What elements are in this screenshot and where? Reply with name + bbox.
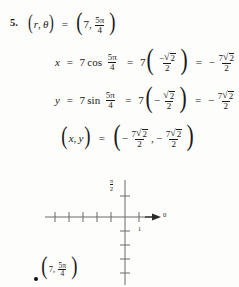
y-coefficient: 7 bbox=[80, 94, 86, 106]
x-computation-line: x = 7 cos 5π4 = 7(−22) = −722 bbox=[55, 53, 238, 74]
answer-var-y: y bbox=[79, 132, 84, 144]
answer-y-denominator: 2 bbox=[169, 139, 178, 149]
sqrt-2-x: 2 bbox=[164, 53, 176, 63]
equals-sign-ans: = bbox=[99, 132, 105, 144]
y-angle-denominator: 4 bbox=[106, 100, 115, 110]
plotted-point-marker bbox=[34, 277, 38, 281]
x-value-denominator: 2 bbox=[163, 63, 172, 73]
answer-line: (x, y) = (−722, −722) bbox=[60, 129, 195, 150]
variable-y: y bbox=[55, 94, 60, 106]
equals-sign-x1: = bbox=[67, 56, 73, 68]
theta-denominator: 4 bbox=[95, 25, 104, 35]
x-value-fraction: −22 bbox=[157, 53, 178, 74]
answer-comma-2: , bbox=[151, 132, 154, 144]
sin-function: sin bbox=[87, 94, 100, 106]
problem-number: 5. bbox=[10, 18, 18, 29]
polar-graph-svg bbox=[0, 168, 239, 287]
sqrt-2-xr: 2 bbox=[223, 53, 235, 63]
x-angle-fraction: 5π4 bbox=[106, 53, 119, 73]
point-comma: , bbox=[53, 264, 55, 274]
variable-x: x bbox=[55, 56, 60, 68]
sqrt-2-y: 2 bbox=[163, 91, 175, 101]
two-denominator: 2 bbox=[110, 184, 113, 192]
sqrt-2-ax: 2 bbox=[136, 129, 148, 139]
polar-axis-label: 0 bbox=[163, 212, 166, 219]
cos-function: cos bbox=[87, 56, 102, 68]
x-angle-denominator: 4 bbox=[108, 62, 117, 72]
equals-sign-y2: = bbox=[125, 94, 131, 106]
x-value-numerator: −2 bbox=[157, 53, 178, 63]
y-angle-numerator: 5π bbox=[104, 91, 117, 100]
vertical-axis-label: π 2 bbox=[110, 178, 113, 192]
x-result-denominator: 2 bbox=[222, 63, 231, 73]
answer-x-sign: − bbox=[122, 132, 128, 144]
equals-sign-x3: = bbox=[196, 56, 202, 68]
variable-theta: θ bbox=[43, 18, 48, 30]
x-coefficient: 7 bbox=[80, 56, 86, 68]
answer-x-fraction: 722 bbox=[130, 129, 150, 150]
y-result-denominator: 2 bbox=[222, 101, 231, 111]
equals-sign-x2: = bbox=[127, 56, 133, 68]
theta-numerator: 5π bbox=[93, 16, 106, 25]
x-result-fraction: 722 bbox=[216, 53, 236, 74]
y-value-sign: − bbox=[154, 94, 160, 106]
equals-sign: = bbox=[62, 18, 68, 30]
answer-y-numerator: 72 bbox=[164, 129, 184, 139]
y-result-sign: − bbox=[208, 94, 214, 106]
comma-2: , bbox=[89, 18, 92, 30]
y-value-denominator: 2 bbox=[165, 101, 174, 111]
x-result-sign: − bbox=[209, 56, 215, 68]
x-result-numerator: 72 bbox=[216, 53, 236, 63]
y-result-fraction: 722 bbox=[216, 91, 236, 112]
point-theta-numerator: 5π bbox=[57, 262, 69, 270]
y-computation-line: y = 7 sin 5π4 = 7(−22) = −722 bbox=[55, 91, 237, 112]
y-value-numerator: 2 bbox=[161, 91, 177, 101]
sqrt-2-yr: 2 bbox=[222, 91, 234, 101]
answer-comma: , bbox=[74, 132, 77, 144]
answer-y-fraction: 722 bbox=[164, 129, 184, 150]
plotted-point-label: (7,5π4) bbox=[40, 262, 78, 279]
point-theta-denominator: 4 bbox=[58, 269, 66, 278]
x-factor: 7 bbox=[140, 56, 146, 68]
equals-sign-y3: = bbox=[195, 94, 201, 106]
theta-fraction: 5π4 bbox=[93, 16, 106, 36]
sqrt-2-ay: 2 bbox=[170, 129, 182, 139]
answer-y-sign: − bbox=[156, 132, 162, 144]
x-angle-numerator: 5π bbox=[106, 53, 119, 62]
point-theta-fraction: 5π4 bbox=[57, 262, 69, 279]
y-result-numerator: 72 bbox=[216, 91, 236, 101]
equals-sign-y1: = bbox=[67, 94, 73, 106]
answer-x-numerator: 72 bbox=[130, 129, 150, 139]
given-polar-coordinates: (r, θ) = (7,5π4) bbox=[27, 16, 116, 36]
unit-tick-label: 1 bbox=[138, 226, 141, 232]
y-angle-fraction: 5π4 bbox=[104, 91, 117, 111]
polar-graph bbox=[0, 168, 239, 287]
comma: , bbox=[38, 18, 41, 30]
y-value-fraction: 22 bbox=[161, 91, 177, 112]
answer-x-denominator: 2 bbox=[135, 139, 144, 149]
y-factor: 7 bbox=[138, 94, 144, 106]
